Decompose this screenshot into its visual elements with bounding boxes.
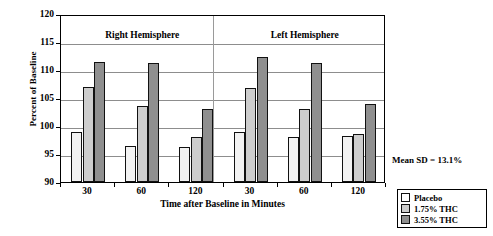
legend-label: 3.55% THC [414,215,458,225]
x-tick-mark [385,183,386,187]
gridline-100 [61,128,384,129]
mean-sd-annotation: Mean SD = 13.1% [392,155,462,165]
gridline-105 [61,100,384,101]
x-tick-120-left: 120 [338,186,378,196]
x-tick-mark [114,183,115,187]
gridline-115 [61,44,384,45]
x-tick-30-right: 30 [67,186,107,196]
bar-placebo-30-left [234,132,245,182]
legend-item-placebo: Placebo [401,192,483,203]
legend-item-thc175: 1.75% THC [401,203,483,214]
legend-swatch-thc355-icon [401,215,410,224]
y-tick-110: 110 [26,66,54,76]
bar-placebo-120-right [179,147,190,182]
y-tick-115: 115 [26,38,54,48]
x-tick-120-right: 120 [175,186,215,196]
bar-placebo-30-right [71,132,82,182]
y-tick-120: 120 [26,10,54,20]
panel-caption-left: Left Hemisphere [230,30,380,40]
x-tick-60-left: 60 [284,186,324,196]
x-tick-mark [277,183,278,187]
bar-thc175-60-left [299,109,310,182]
bar-thc175-30-right [83,87,94,182]
chart-figure: Percent of Baseline 9095100105110115120 … [0,0,493,236]
gridline-95 [61,156,384,157]
x-tick-mark [168,183,169,187]
legend-swatch-placebo-icon [401,193,410,202]
legend-label: Placebo [414,193,442,203]
panel-caption-right: Right Hemisphere [67,30,217,40]
bar-thc355-60-right [148,63,159,182]
bar-thc355-120-right [202,109,213,182]
bar-thc175-120-right [191,137,202,182]
bar-thc175-30-left [245,88,256,182]
bar-thc175-60-right [137,106,148,182]
legend-item-thc355: 3.55% THC [401,214,483,225]
plot-area: Right HemisphereLeft Hemisphere [60,15,385,183]
bar-thc355-60-left [311,63,322,182]
x-tick-mark [60,183,61,187]
bar-thc355-30-right [94,62,105,182]
legend-label: 1.75% THC [414,204,458,214]
bar-placebo-120-left [342,136,353,182]
x-axis-title: Time after Baseline in Minutes [60,199,385,209]
x-tick-30-left: 30 [230,186,270,196]
x-tick-mark [223,183,224,187]
bar-placebo-60-left [288,137,299,182]
x-tick-60-right: 60 [121,186,161,196]
y-tick-90: 90 [26,178,54,188]
legend-swatch-thc175-icon [401,204,410,213]
x-tick-mark [331,183,332,187]
y-axis-title: Percent of Baseline [28,14,38,164]
bar-thc355-30-left [257,57,268,182]
legend: Placebo1.75% THC3.55% THC [397,189,487,228]
bar-thc355-120-left [365,104,376,182]
gridline-110 [61,72,384,73]
bar-thc175-120-left [353,134,364,182]
y-tick-95: 95 [26,150,54,160]
bar-placebo-60-right [125,146,136,182]
y-tick-105: 105 [26,94,54,104]
y-tick-100: 100 [26,122,54,132]
